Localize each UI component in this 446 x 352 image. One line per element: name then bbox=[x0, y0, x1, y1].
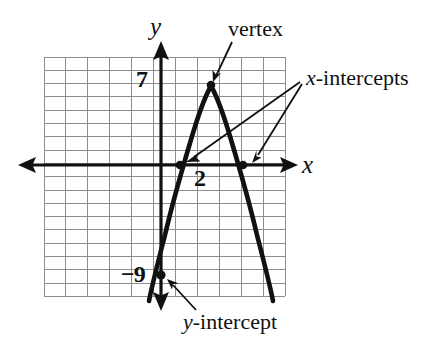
y-intercept-italic-y: y bbox=[183, 309, 193, 334]
x-intercepts-rest: -intercepts bbox=[316, 65, 409, 90]
y-intercept-rest: -intercept bbox=[193, 309, 277, 334]
y-intercept-point bbox=[156, 270, 165, 279]
y-value-label-7: 7 bbox=[136, 67, 148, 91]
x-intercept-right-point bbox=[239, 161, 248, 170]
y-value-label-neg9: −9 bbox=[121, 262, 145, 286]
vertex-annotation-label: vertex bbox=[228, 18, 283, 40]
y-intercept-annotation-label: y-intercept bbox=[183, 311, 277, 333]
parabola-graph bbox=[0, 0, 446, 352]
figure-background bbox=[0, 0, 446, 352]
y-axis-label: y bbox=[150, 14, 161, 39]
x-axis-label: x bbox=[302, 152, 313, 177]
x-value-label-2: 2 bbox=[194, 166, 206, 190]
vertex-point bbox=[207, 81, 216, 90]
x-intercepts-italic-x: x bbox=[306, 65, 316, 90]
x-intercepts-annotation-label: x-intercepts bbox=[306, 67, 409, 89]
x-intercept-left-point bbox=[176, 161, 185, 170]
